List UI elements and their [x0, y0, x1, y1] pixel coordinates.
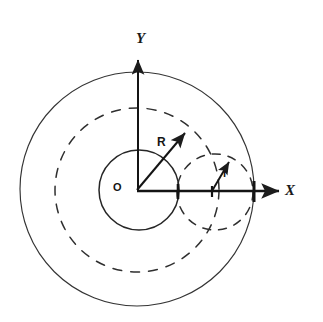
y-axis-label: Y [136, 31, 145, 46]
x-axis-label: X [285, 183, 295, 198]
figure-canvas: Y X O R r [0, 0, 323, 322]
origin-label: O [113, 182, 122, 193]
vector-r-label: r [223, 168, 227, 179]
circle-diagram-svg [0, 0, 323, 322]
vector-R-label: R [157, 136, 166, 148]
